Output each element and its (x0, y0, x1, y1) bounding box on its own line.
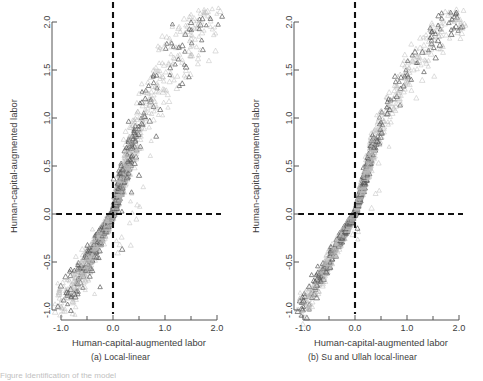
y-axis: -1.0-0.50.00.51.01.52.0Human-capital-aug… (8, 16, 57, 318)
y-tick-label: 1.5 (284, 64, 294, 77)
x-axis-title: Human-capital-augmented labor (72, 337, 206, 348)
y-tick-label: -1.0 (284, 302, 294, 318)
x-tick-label: 2.0 (453, 323, 466, 333)
x-tick-label: 1.0 (401, 323, 414, 333)
y-tick-label: 0.0 (284, 208, 294, 221)
data-points (52, 6, 224, 317)
y-tick-label: -0.5 (284, 254, 294, 270)
x-tick-label: -1.0 (53, 323, 69, 333)
x-axis: -1.00.01.02.0Human-capital-augmented lab… (295, 315, 465, 348)
y-tick-label: 0.5 (284, 160, 294, 173)
y-tick-label: 1.5 (42, 64, 52, 77)
y-axis: -1.0-0.50.00.51.01.52.0Human-capital-aug… (250, 16, 299, 318)
x-tick-label: 1.0 (159, 323, 172, 333)
figure-root: -1.0-0.50.00.51.01.52.0Human-capital-aug… (0, 0, 483, 381)
figure-caption: Figure Identification of the model (0, 371, 483, 381)
y-tick-label: 1.0 (284, 112, 294, 125)
x-axis-title: Human-capital-augmented labor (314, 337, 448, 348)
y-tick-label: 2.0 (284, 16, 294, 29)
y-tick-label: -1.0 (42, 302, 52, 318)
y-tick-label: -0.5 (42, 254, 52, 270)
y-tick-label: 2.0 (42, 16, 52, 29)
panel-a-subcaption: (a) Local-linear (0, 352, 241, 362)
panel-b-subcaption: (b) Su and Ullah local-linear (242, 352, 483, 362)
y-tick-label: 1.0 (42, 112, 52, 125)
y-axis-title: Human-capital-augmented labor (8, 99, 19, 233)
x-tick-label: -1.0 (295, 323, 311, 333)
x-tick-label: 0.0 (107, 323, 120, 333)
x-axis: -1.00.01.02.0Human-capital-augmented lab… (53, 315, 223, 348)
x-tick-label: 0.0 (349, 323, 362, 333)
panel-local-linear: -1.0-0.50.00.51.01.52.0Human-capital-aug… (0, 0, 241, 370)
data-points (295, 7, 468, 326)
x-tick-label: 2.0 (211, 323, 224, 333)
panel-su-ullah-local-linear: -1.0-0.50.00.51.01.52.0Human-capital-aug… (242, 0, 483, 370)
scatter-plot-b: -1.0-0.50.00.51.01.52.0Human-capital-aug… (242, 0, 483, 352)
y-axis-title: Human-capital-augmented labor (250, 99, 261, 233)
scatter-plot-a: -1.0-0.50.00.51.01.52.0Human-capital-aug… (0, 0, 241, 352)
y-tick-label: 0.0 (42, 208, 52, 221)
y-tick-label: 0.5 (42, 160, 52, 173)
